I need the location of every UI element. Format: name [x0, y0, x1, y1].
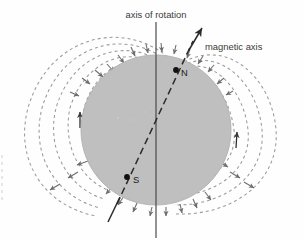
magnetic-axis-head — [189, 28, 202, 50]
north-pole-label: N — [181, 67, 188, 78]
magnetic-field-diagram: axis of rotation magnetic axis N S — [0, 0, 305, 241]
south-pole-marker — [124, 174, 130, 180]
north-pole-marker — [173, 67, 179, 73]
magnetic-axis-tail — [108, 197, 120, 222]
diagram-canvas: axis of rotation magnetic axis N S — [0, 0, 305, 241]
axis-of-rotation-label: axis of rotation — [126, 9, 187, 20]
south-pole-label: S — [133, 174, 139, 185]
magnetic-axis-label: magnetic axis — [205, 41, 263, 52]
